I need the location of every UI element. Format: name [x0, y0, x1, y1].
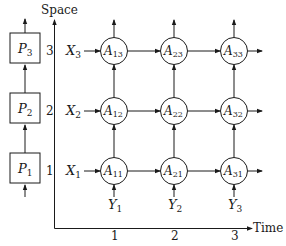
space-tick-3: 3 [46, 44, 54, 58]
node-a33: A33 [221, 38, 248, 65]
time-tick-2: 2 [171, 229, 179, 243]
node-a13: A13 [101, 38, 128, 65]
space-axis-label: Space [41, 3, 78, 17]
x1-label: X1 [65, 163, 81, 180]
processor-p1: P1 [10, 153, 40, 183]
space-time-diagram: P3 P2 P1 Space Time 3 2 1 1 2 3 [0, 0, 286, 246]
y1-label: Y1 [108, 197, 122, 214]
node-a21: A21 [161, 158, 188, 185]
y3-label: Y3 [228, 197, 243, 214]
node-a11: A11 [101, 158, 128, 185]
time-tick-1: 1 [111, 229, 119, 243]
node-a22: A22 [161, 98, 188, 125]
y2-label: Y2 [168, 197, 182, 214]
node-a23: A23 [161, 38, 188, 65]
time-axis-label: Time [253, 221, 283, 235]
space-tick-1: 1 [46, 164, 54, 178]
processor-p3: P3 [10, 33, 40, 63]
node-a31: A31 [221, 158, 248, 185]
x2-label: X2 [65, 103, 81, 120]
processor-p2: P2 [10, 93, 40, 123]
time-tick-3: 3 [231, 229, 239, 243]
node-a32: A32 [221, 98, 248, 125]
space-tick-2: 2 [46, 104, 54, 118]
x3-label: X3 [65, 43, 81, 60]
node-a12: A12 [101, 98, 128, 125]
